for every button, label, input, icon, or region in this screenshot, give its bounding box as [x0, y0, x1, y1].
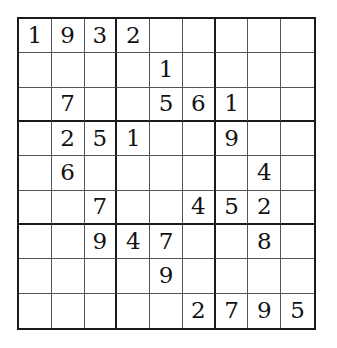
sudoku-cell-given: 9: [150, 259, 183, 293]
sudoku-cell-empty[interactable]: [117, 53, 150, 87]
sudoku-cell-empty[interactable]: [19, 294, 52, 328]
sudoku-cell-empty[interactable]: [248, 19, 281, 53]
sudoku-cell-given: 1: [150, 53, 183, 87]
sudoku-cell-empty[interactable]: [52, 259, 85, 293]
sudoku-cell-given: 9: [216, 122, 249, 156]
sudoku-cell-empty[interactable]: [216, 156, 249, 190]
sudoku-cell-empty[interactable]: [85, 294, 118, 328]
sudoku-cell-empty[interactable]: [281, 53, 314, 87]
sudoku-cell-given: 5: [150, 88, 183, 122]
sudoku-cell-given: 9: [52, 19, 85, 53]
sudoku-cell-given: 2: [183, 294, 216, 328]
sudoku-cell-given: 3: [85, 19, 118, 53]
sudoku-cell-given: 5: [281, 294, 314, 328]
sudoku-cell-empty[interactable]: [117, 191, 150, 225]
sudoku-cell-given: 7: [52, 88, 85, 122]
sudoku-cell-empty[interactable]: [85, 259, 118, 293]
sudoku-cell-empty[interactable]: [248, 88, 281, 122]
sudoku-cell-given: 2: [52, 122, 85, 156]
sudoku-cell-given: 4: [117, 225, 150, 259]
sudoku-cell-given: 7: [150, 225, 183, 259]
sudoku-cell-empty[interactable]: [117, 88, 150, 122]
sudoku-cell-empty[interactable]: [85, 88, 118, 122]
sudoku-cell-given: 1: [216, 88, 249, 122]
sudoku-cell-given: 7: [216, 294, 249, 328]
sudoku-cell-empty[interactable]: [19, 225, 52, 259]
sudoku-cell-empty[interactable]: [150, 294, 183, 328]
sudoku-cell-empty[interactable]: [19, 259, 52, 293]
sudoku-cell-empty[interactable]: [150, 191, 183, 225]
sudoku-cell-empty[interactable]: [216, 19, 249, 53]
sudoku-cell-empty[interactable]: [52, 191, 85, 225]
sudoku-cell-empty[interactable]: [281, 259, 314, 293]
sudoku-cell-empty[interactable]: [281, 225, 314, 259]
sudoku-cell-given: 5: [216, 191, 249, 225]
sudoku-cell-empty[interactable]: [248, 122, 281, 156]
sudoku-cell-given: 8: [248, 225, 281, 259]
sudoku-cell-empty[interactable]: [183, 259, 216, 293]
sudoku-cell-empty[interactable]: [281, 88, 314, 122]
sudoku-cell-empty[interactable]: [19, 53, 52, 87]
sudoku-cell-empty[interactable]: [117, 294, 150, 328]
sudoku-cell-empty[interactable]: [150, 156, 183, 190]
sudoku-cell-empty[interactable]: [281, 156, 314, 190]
sudoku-cell-given: 9: [85, 225, 118, 259]
sudoku-cell-given: 2: [117, 19, 150, 53]
sudoku-cell-given: 9: [248, 294, 281, 328]
sudoku-cell-empty[interactable]: [216, 259, 249, 293]
sudoku-cell-given: 6: [52, 156, 85, 190]
sudoku-cell-given: 2: [248, 191, 281, 225]
sudoku-cell-empty[interactable]: [216, 225, 249, 259]
sudoku-cell-empty[interactable]: [117, 156, 150, 190]
sudoku-cell-empty[interactable]: [248, 53, 281, 87]
sudoku-cell-empty[interactable]: [85, 53, 118, 87]
sudoku-cell-empty[interactable]: [19, 122, 52, 156]
sudoku-cell-given: 5: [85, 122, 118, 156]
sudoku-cell-given: 4: [248, 156, 281, 190]
sudoku-cell-empty[interactable]: [248, 259, 281, 293]
sudoku-board: 1932175612519647452947892795: [17, 17, 316, 330]
sudoku-cell-empty[interactable]: [183, 122, 216, 156]
sudoku-cell-empty[interactable]: [117, 259, 150, 293]
sudoku-cell-empty[interactable]: [52, 53, 85, 87]
sudoku-cell-empty[interactable]: [150, 19, 183, 53]
sudoku-cell-empty[interactable]: [281, 19, 314, 53]
sudoku-cell-empty[interactable]: [52, 294, 85, 328]
sudoku-cell-empty[interactable]: [52, 225, 85, 259]
sudoku-cell-given: 4: [183, 191, 216, 225]
sudoku-cell-empty[interactable]: [150, 122, 183, 156]
sudoku-cell-empty[interactable]: [281, 122, 314, 156]
sudoku-cell-empty[interactable]: [216, 53, 249, 87]
sudoku-cell-empty[interactable]: [85, 156, 118, 190]
sudoku-cell-empty[interactable]: [183, 53, 216, 87]
sudoku-cell-empty[interactable]: [19, 156, 52, 190]
sudoku-cell-empty[interactable]: [183, 225, 216, 259]
sudoku-cell-empty[interactable]: [19, 191, 52, 225]
sudoku-cell-given: 1: [117, 122, 150, 156]
sudoku-cell-empty[interactable]: [19, 88, 52, 122]
sudoku-cell-empty[interactable]: [183, 19, 216, 53]
sudoku-cell-empty[interactable]: [183, 156, 216, 190]
sudoku-cell-given: 1: [19, 19, 52, 53]
sudoku-cell-given: 6: [183, 88, 216, 122]
sudoku-cell-given: 7: [85, 191, 118, 225]
sudoku-cell-empty[interactable]: [281, 191, 314, 225]
